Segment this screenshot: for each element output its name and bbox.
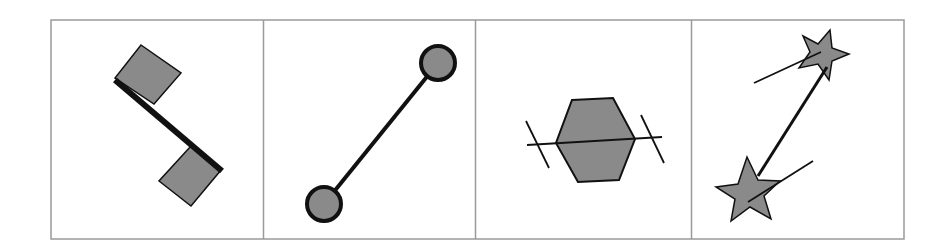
- figure-canvas: [0, 0, 941, 248]
- circle-shape-top: [421, 46, 455, 80]
- circle-shape-bottom: [307, 187, 341, 221]
- connector-line: [758, 67, 827, 176]
- panel-1-squares: [115, 45, 222, 206]
- square-shape-top: [115, 45, 181, 104]
- connector-line: [324, 63, 438, 204]
- panel-2-circles: [307, 46, 455, 221]
- tick-right: [641, 115, 664, 163]
- connector-line: [115, 80, 222, 171]
- outer-border: [51, 20, 904, 239]
- panel-frame: [51, 20, 904, 239]
- panel-4-stars: [716, 30, 849, 221]
- star-shape-bottom: [716, 157, 780, 221]
- panel-3-hexagon: [526, 98, 664, 182]
- square-shape-bottom: [159, 146, 221, 206]
- orientation-line-top: [754, 52, 821, 83]
